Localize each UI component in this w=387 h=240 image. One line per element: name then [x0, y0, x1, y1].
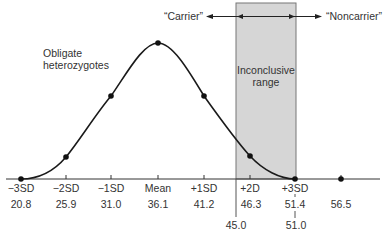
- sd-label: −2SD: [53, 182, 80, 194]
- noncarrier-label: “Noncarrier”: [326, 10, 383, 22]
- value-label: 25.9: [56, 198, 77, 210]
- value-label: 46.3: [241, 198, 262, 210]
- obligate-heterozygotes-label-line1: Obligate: [43, 47, 82, 59]
- sd-label: −1SD: [98, 182, 125, 194]
- sd-label: +1SD: [191, 182, 218, 194]
- value-label: 36.1: [148, 198, 169, 210]
- noncarrier-arrow: [296, 14, 322, 19]
- sd-label: −3SD: [8, 182, 35, 194]
- obligate-heterozygotes-label-line2: heterozygotes: [43, 59, 109, 71]
- cutoff-label-51: 51.0: [286, 219, 307, 231]
- value-label: 41.2: [194, 198, 215, 210]
- sd-label: +2D: [240, 182, 260, 194]
- inconclusive-label-line2: range: [253, 76, 280, 88]
- value-label: 51.4: [285, 198, 306, 210]
- value-label: 31.0: [101, 198, 122, 210]
- value-labels: 20.8 25.9 31.0 36.1 41.2 46.3 51.4 56.5: [11, 198, 352, 210]
- cutoff-label-45: 45.0: [226, 219, 247, 231]
- axis-ticks: [66, 175, 341, 179]
- value-label: 20.8: [11, 198, 32, 210]
- sd-labels: −3SD −2SD −1SD Mean +1SD +2D +3SD: [8, 182, 309, 194]
- bell-curve-diagram: “Carrier” “Noncarrier” Obligate heterozy…: [0, 0, 387, 240]
- value-label: 56.5: [331, 198, 352, 210]
- sd-label: Mean: [145, 182, 171, 194]
- inconclusive-label-line1: Inconclusive: [237, 64, 295, 76]
- inconclusive-range-box: [236, 3, 296, 179]
- carrier-label: “Carrier”: [164, 10, 204, 22]
- sd-label: +3SD: [282, 182, 309, 194]
